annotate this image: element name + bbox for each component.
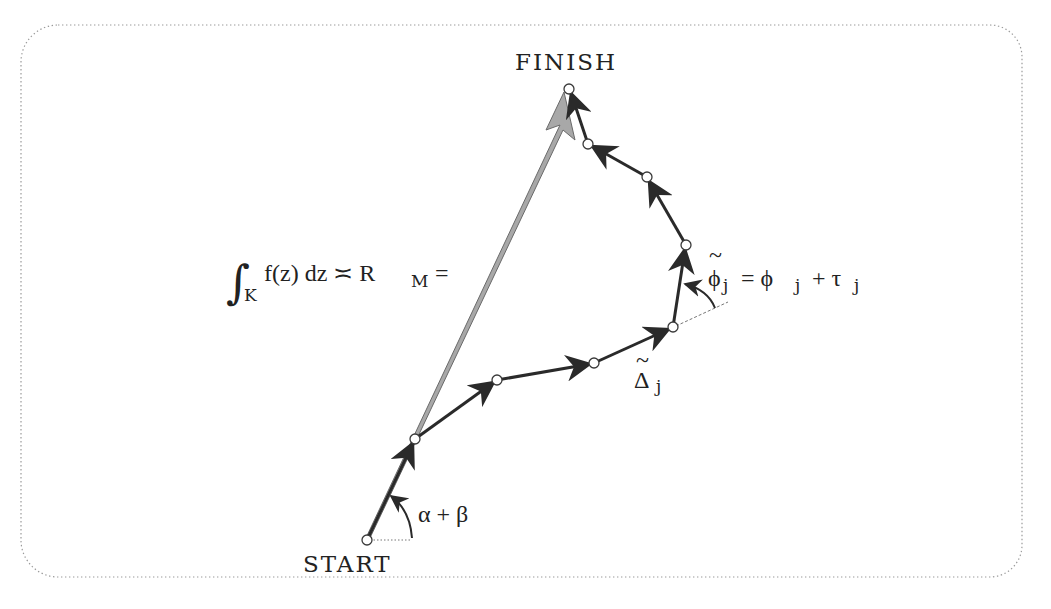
phi-lhs: ϕ [708,265,721,291]
delta-symbol: Δ [634,367,649,393]
integral-equals: = [435,260,449,286]
start-label: START [303,551,392,577]
path-segments [367,93,686,540]
delta-subscript: j [654,376,661,396]
finish-label: FINISH [515,49,617,75]
tangent-extension [676,302,728,326]
angle-label-alpha-beta: α + β [418,501,468,527]
phi-equals: = ϕ [741,265,773,291]
frame-dotted [21,25,1022,577]
integral-formula: ∫ K f(z) dz ≍ R M = [226,255,449,309]
integral-subscript: M [411,271,428,291]
resultant-arrow [365,92,575,540]
angle-arc-start [391,496,412,538]
integral-lower-limit: K [244,285,257,305]
phi-rhs-subscript: j [793,275,800,295]
phi-formula: ~ ϕ j = ϕ j + τ j [708,242,859,295]
path-integral-diagram: FINISH START ∫ K f(z) dz ≍ R M = α + β ~… [0,0,1051,609]
path-nodes [362,84,691,545]
integral-body: f(z) dz ≍ R [264,260,375,286]
phi-lhs-subscript: j [721,275,728,295]
delta-label: ~ Δ j [634,347,661,396]
plus-tau: + τ [812,265,842,291]
tau-subscript: j [852,275,859,295]
